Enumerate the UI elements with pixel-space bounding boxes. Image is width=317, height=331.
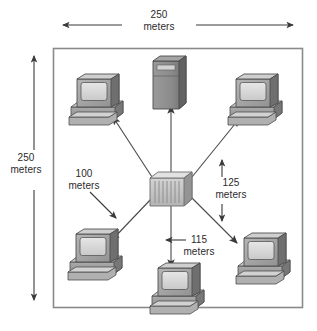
distance-label-100: 100 meters — [58, 168, 110, 191]
workstation-bottom-center-icon — [150, 263, 204, 314]
dimension-top-value: 250 — [123, 9, 195, 21]
dimension-left-value: 250 — [2, 152, 50, 164]
workstation-top-right-icon — [228, 74, 282, 125]
dimension-label-top: 250 meters — [123, 9, 195, 32]
network-diagram: 250 meters 250 meters 100 meters 125 met… — [0, 0, 317, 331]
server-tower-icon — [153, 56, 186, 109]
distance-125-unit: meters — [208, 189, 254, 201]
link-hub-ws-top-left — [113, 117, 152, 177]
workstation-bottom-right-icon — [236, 233, 290, 284]
distance-100-value: 100 — [58, 168, 110, 180]
dimension-left-unit: meters — [2, 164, 50, 176]
workstation-top-left-icon — [69, 74, 123, 125]
link-hub-ws-top-right — [192, 119, 239, 177]
callout-arrow-100 — [90, 192, 116, 218]
distance-125-value: 125 — [208, 177, 254, 189]
distance-115-value: 115 — [175, 234, 223, 246]
network-hub-icon — [150, 172, 192, 206]
distance-115-unit: meters — [175, 246, 223, 258]
distance-label-125: 125 meters — [208, 177, 254, 200]
workstation-bottom-left-icon — [68, 229, 122, 280]
dimension-label-left: 250 meters — [2, 152, 50, 175]
distance-label-115: 115 meters — [175, 234, 223, 257]
dimension-top-unit: meters — [123, 21, 195, 33]
distance-100-unit: meters — [58, 180, 110, 192]
